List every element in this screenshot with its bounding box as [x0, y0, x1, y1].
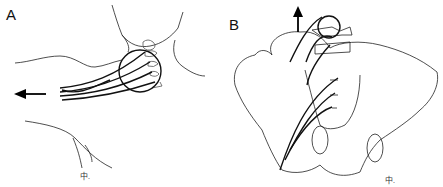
- signature-a: 中.: [80, 170, 90, 181]
- figure-illustration: [0, 0, 443, 187]
- panel-a-drawing: [15, 5, 205, 168]
- panel-b-drawing: [234, 27, 437, 175]
- panel-a-nerves: [60, 50, 161, 100]
- signature-b: 中.: [385, 174, 395, 185]
- arrow-icon-left: [14, 89, 46, 99]
- arrow-icon-up: [293, 6, 303, 32]
- panel-b-nerves: [280, 16, 340, 170]
